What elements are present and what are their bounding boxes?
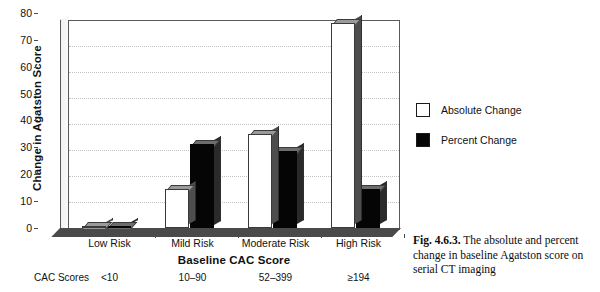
cac-score-value: 10–90 — [147, 272, 239, 283]
y-tick-label: 50 — [6, 89, 32, 99]
bar-front-face — [82, 226, 106, 228]
y-tick-label: 80 — [6, 8, 32, 18]
y-tick-label: 60 — [6, 62, 32, 72]
bar-low-risk-absolute-change — [82, 226, 106, 228]
bar-side-face — [297, 143, 304, 224]
chart-legend: Absolute ChangePercent Change — [416, 103, 522, 163]
y-tick-mark — [34, 120, 38, 121]
legend-item-percent-change: Percent Change — [416, 133, 522, 147]
legend-label: Percent Change — [441, 135, 517, 146]
y-tick-mark — [34, 147, 38, 148]
figure-caption-number: Fig. 4.6.3. — [413, 234, 461, 246]
figure-caption: Fig. 4.6.3. The absolute and percent cha… — [413, 233, 593, 277]
bar-mild-risk-absolute-change — [165, 189, 189, 228]
bar-high-risk-absolute-change — [331, 23, 355, 228]
bar-front-face — [331, 23, 355, 228]
y-tick-label: 10 — [6, 196, 32, 206]
bar-side-face — [355, 15, 362, 224]
y-tick-mark — [34, 67, 38, 68]
y-tick-label: 40 — [6, 115, 32, 125]
cac-score-value: <10 — [64, 272, 156, 283]
legend-swatch-icon — [416, 133, 430, 147]
legend-swatch-icon — [416, 103, 430, 117]
y-tick-mark — [34, 174, 38, 175]
x-tick-label-mild-risk: Mild Risk — [147, 238, 239, 249]
bar-front-face — [165, 189, 189, 228]
figure-container: Change in Agatston Score 010203040506070… — [0, 0, 600, 292]
bar-front-face — [107, 226, 131, 228]
legend-item-absolute-change: Absolute Change — [416, 103, 522, 117]
legend-label: Absolute Change — [441, 105, 522, 116]
cac-score-value: 52–399 — [230, 272, 322, 283]
y-tick-mark — [34, 40, 38, 41]
y-tick-mark — [34, 201, 38, 202]
bar-side-face — [214, 135, 221, 224]
bar-low-risk-percent-change — [107, 226, 131, 228]
bar-moderate-risk-absolute-change — [248, 134, 272, 228]
y-tick-mark — [34, 13, 38, 14]
x-tick-label-low-risk: Low Risk — [64, 238, 156, 249]
x-axis-title: Baseline CAC Score — [68, 254, 400, 266]
y-tick-mark — [34, 94, 38, 95]
cac-score-value: ≥194 — [313, 272, 405, 283]
y-tick-label: 0 — [6, 223, 32, 233]
plot-floor — [51, 228, 401, 237]
x-tick-label-moderate-risk: Moderate Risk — [230, 238, 322, 249]
bar-side-face — [272, 126, 279, 224]
x-tick-label-high-risk: High Risk — [313, 238, 405, 249]
y-tick-label: 30 — [6, 142, 32, 152]
y-axis-title: Change in Agatston Score — [31, 18, 43, 218]
x-tick-mark — [404, 234, 405, 238]
bar-front-face — [248, 134, 272, 228]
y-tick-label: 20 — [6, 169, 32, 179]
y-tick-label: 70 — [6, 35, 32, 45]
y-tick-mark — [34, 228, 38, 229]
